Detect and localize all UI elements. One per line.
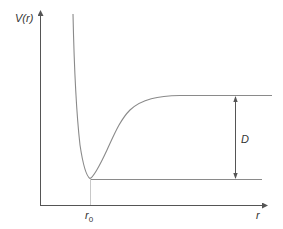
y-axis-label: V(r) [15, 12, 34, 24]
potential-curve [73, 14, 200, 179]
depth-label: D [241, 133, 249, 145]
x-axis-label: r [256, 209, 261, 221]
equilibrium-label-subscript: 0 [89, 215, 94, 224]
morse-potential-diagram: V(r) r D r0 [0, 0, 283, 229]
equilibrium-label: r0 [85, 209, 94, 224]
